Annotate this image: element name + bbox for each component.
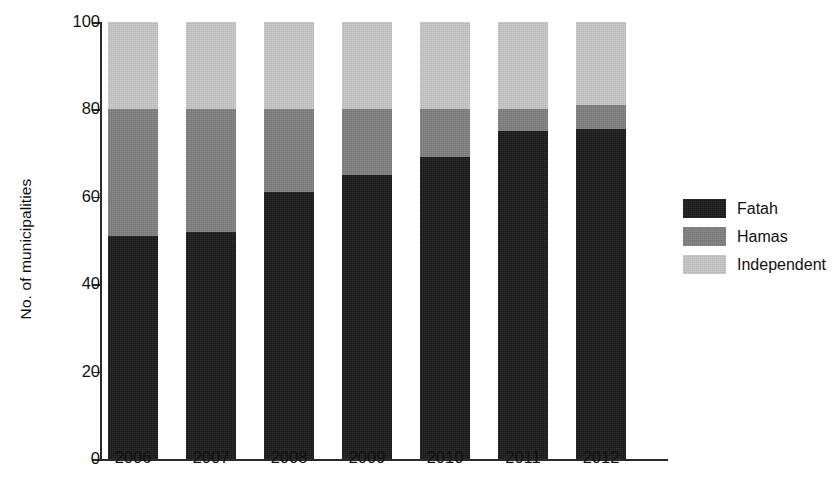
stacked-bar-chart: No. of municipalities 020406080100 20062… xyxy=(0,0,838,488)
legend-swatch-hamas xyxy=(683,227,726,246)
x-tick-label: 2007 xyxy=(171,448,251,467)
bar-segment-independent xyxy=(108,22,158,109)
bar-segment-hamas xyxy=(108,109,158,236)
y-tick-label: 100 xyxy=(72,12,100,31)
legend-label: Hamas xyxy=(737,228,788,246)
chart-legend: FatahHamasIndependent xyxy=(683,196,833,280)
y-axis-title: No. of municipalities xyxy=(17,129,35,369)
bar-segment-fatah xyxy=(576,129,626,459)
legend-item: Independent xyxy=(683,252,833,277)
bar-segment-independent xyxy=(576,22,626,105)
x-tick-label: 2011 xyxy=(483,448,563,467)
bar-segment-fatah xyxy=(342,175,392,459)
bar-segment-independent xyxy=(264,22,314,109)
x-tick-label: 2010 xyxy=(405,448,485,467)
legend-swatch-fatah xyxy=(683,199,726,218)
bar-segment-fatah xyxy=(264,192,314,459)
bar-segment-independent xyxy=(342,22,392,109)
bar-segment-hamas xyxy=(420,109,470,157)
bar-group xyxy=(498,22,548,459)
bar-segment-independent xyxy=(420,22,470,109)
bar-segment-hamas xyxy=(576,105,626,129)
legend-label: Independent xyxy=(737,256,826,274)
bar-segment-hamas xyxy=(498,109,548,131)
y-tick-label: 60 xyxy=(82,187,100,206)
x-tick-label: 2009 xyxy=(327,448,407,467)
legend-item: Hamas xyxy=(683,224,833,249)
y-tick-label: 80 xyxy=(82,100,100,119)
bar-group xyxy=(108,22,158,459)
y-tick-label: 20 xyxy=(82,362,100,381)
bar-segment-hamas xyxy=(186,109,236,231)
plot-area: 020406080100 xyxy=(100,22,668,459)
legend-swatch-independent xyxy=(683,255,726,274)
bar-group xyxy=(264,22,314,459)
bar-segment-fatah xyxy=(498,131,548,459)
bar-segment-independent xyxy=(498,22,548,109)
y-tick-label: 40 xyxy=(82,274,100,293)
bar-segment-hamas xyxy=(264,109,314,192)
bar-segment-fatah xyxy=(186,232,236,459)
legend-item: Fatah xyxy=(683,196,833,221)
bar-group xyxy=(576,22,626,459)
bar-segment-independent xyxy=(186,22,236,109)
bar-segment-fatah xyxy=(108,236,158,459)
x-tick-label: 2008 xyxy=(249,448,329,467)
y-axis-line xyxy=(100,22,102,459)
x-tick-label: 2012 xyxy=(561,448,641,467)
x-tick-label: 2006 xyxy=(93,448,173,467)
bar-segment-fatah xyxy=(420,157,470,459)
bar-group xyxy=(420,22,470,459)
bar-segment-hamas xyxy=(342,109,392,175)
legend-label: Fatah xyxy=(737,200,778,218)
bar-group xyxy=(342,22,392,459)
bar-group xyxy=(186,22,236,459)
